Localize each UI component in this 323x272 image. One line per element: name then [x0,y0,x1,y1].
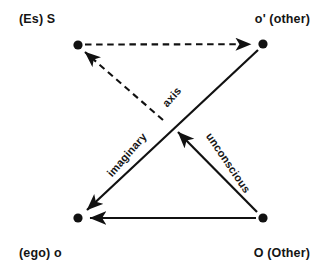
node-o-other [258,213,267,222]
corner-label-es-s: (Es) S [19,13,55,26]
node-ego-o [73,213,82,222]
corner-label-ego-o: (ego) o [19,247,62,260]
diagram-canvas [0,0,323,272]
schema-l-diagram: (Es) S o' (other) (ego) o O (Other) axis… [0,0,323,272]
corner-label-o-prime: o' (other) [255,13,310,26]
node-o-prime [258,39,267,48]
edge-unconscious-dashed [85,52,163,120]
corner-label-o-other: O (Other) [254,247,310,260]
node-es-s [73,40,82,49]
